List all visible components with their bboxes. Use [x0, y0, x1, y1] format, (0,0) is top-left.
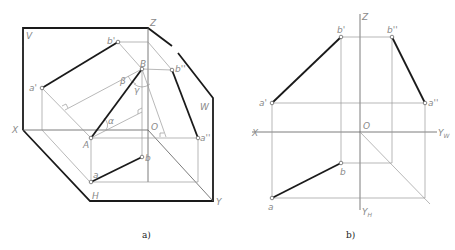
point-a: [270, 196, 274, 200]
point-a: [89, 180, 93, 184]
line-aprime-bprime: [272, 37, 341, 103]
figure-b-orthographic: Z X O YW YH b' b'' a' a'' b a b): [251, 12, 451, 240]
label-origin: O: [363, 121, 370, 131]
w-plane-frame: [23, 53, 213, 201]
label-b: b: [145, 153, 151, 163]
label-b: b: [340, 167, 346, 177]
label-axis-yw: YW: [438, 128, 451, 139]
proj-bprime-B: [118, 42, 142, 69]
point-aprime: [270, 101, 274, 105]
line-bdprime-adprime: [392, 37, 425, 103]
point-A: [89, 136, 93, 140]
label-adprime: a'': [200, 133, 210, 143]
point-adprime: [423, 101, 427, 105]
label-adprime: a'': [428, 98, 438, 108]
line-A-B: [91, 69, 142, 138]
label-beta: β: [119, 76, 126, 86]
caption-a: a): [142, 230, 151, 240]
label-B: B: [140, 59, 146, 69]
label-axis-x: X: [11, 125, 19, 135]
label-bdprime: b'': [175, 64, 186, 74]
line-a-b: [272, 163, 341, 198]
point-b: [140, 155, 144, 159]
right-angle-beta: [62, 104, 68, 108]
miter-line-45: [360, 132, 430, 204]
label-axis-z: Z: [149, 18, 157, 28]
label-w-plane: W: [200, 102, 210, 112]
label-axis-y: Y: [216, 197, 223, 207]
label-axis-yh: YH: [362, 207, 373, 218]
proj-aprime-A: [42, 88, 91, 138]
label-gamma: γ: [134, 85, 140, 95]
projection-diagram: V W H X Y Z O b' a' B b'' a'' A b a α β …: [0, 0, 455, 250]
label-a: a: [268, 202, 274, 212]
right-angle-gamma: [160, 133, 164, 137]
label-axis-x: X: [251, 128, 259, 138]
line-bdprime-adprime: [172, 70, 198, 138]
label-origin: O: [151, 122, 158, 132]
label-axis-z: Z: [361, 12, 369, 22]
label-a: a: [93, 170, 99, 180]
label-A: A: [82, 140, 89, 150]
proj-B-beta: [65, 69, 142, 110]
proj-B-bdprime: [142, 69, 172, 70]
proj-bprime-top: [148, 42, 172, 70]
caption-b: b): [346, 230, 355, 240]
line-a-b: [91, 157, 142, 182]
label-bprime: b': [107, 36, 115, 46]
point-bdprime: [170, 68, 174, 72]
v-plane-frame: [23, 28, 172, 130]
label-bdprime: b'': [387, 25, 398, 35]
point-bdprime: [390, 35, 394, 39]
point-bprime: [339, 35, 343, 39]
line-aprime-bprime: [42, 42, 118, 88]
label-bprime: b': [337, 25, 345, 35]
label-alpha: α: [108, 116, 114, 126]
label-aprime: a': [259, 98, 267, 108]
point-aprime: [40, 86, 44, 90]
figure-a-pictorial: V W H X Y Z O b' a' B b'' a'' A b a α β …: [11, 18, 223, 240]
label-v-plane: V: [26, 31, 33, 41]
label-h-plane: H: [92, 191, 99, 201]
label-aprime: a': [29, 83, 37, 93]
point-b: [339, 161, 343, 165]
point-bprime: [116, 40, 120, 44]
proj-A-alpha: [91, 112, 142, 138]
h-plane-edge: [42, 130, 90, 182]
